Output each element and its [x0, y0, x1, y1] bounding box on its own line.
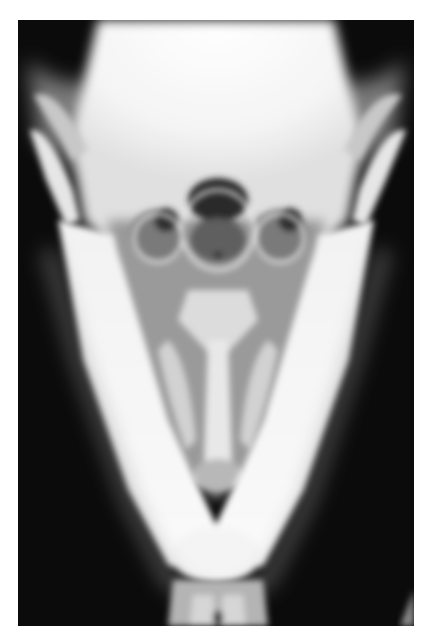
xray-drawing [18, 20, 414, 626]
xray-image [18, 20, 414, 626]
